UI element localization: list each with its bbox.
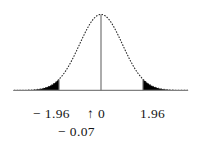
annotation-observed-value: − 0.07: [58, 123, 95, 141]
tick-label-positive-critical: 1.96: [140, 105, 165, 123]
tick-label-row: − 1.96 ↑ 0 1.96: [0, 105, 202, 125]
normal-curve-plot: [0, 0, 202, 100]
normal-distribution-figure: − 1.96 ↑ 0 1.96 − 0.07: [0, 0, 202, 148]
tick-label-negative-critical: − 1.96: [33, 105, 70, 123]
left-tail-shaded-area: [14, 79, 59, 90]
tick-label-mean-with-arrow: ↑ 0: [87, 105, 105, 123]
annotation-row: − 0.07: [0, 123, 202, 143]
axis-label-group: − 1.96 ↑ 0 1.96 − 0.07: [0, 100, 202, 148]
